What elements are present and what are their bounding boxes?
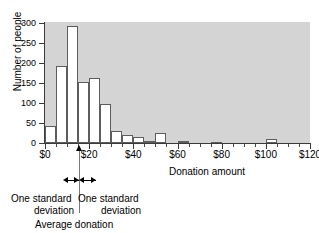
y-axis-title: Number of people bbox=[12, 0, 23, 107]
x-axis-title: Donation amount bbox=[0, 166, 319, 177]
x-tick-minor bbox=[144, 144, 145, 147]
x-tick-minor bbox=[122, 144, 123, 147]
average-donation-label: Average donation bbox=[35, 219, 113, 231]
x-tick-minor bbox=[277, 144, 278, 147]
x-tick-minor bbox=[155, 144, 156, 147]
x-tick-label: $40 bbox=[125, 150, 142, 160]
x-tick-minor bbox=[255, 144, 256, 147]
x-tick-minor bbox=[211, 144, 212, 147]
sd-left-label-line1: One standard bbox=[11, 193, 72, 205]
sd-right-label-line1: One standard bbox=[78, 193, 139, 205]
sd-right-label-line2: deviation bbox=[101, 205, 141, 217]
x-tick-minor bbox=[111, 144, 112, 147]
x-tick-minor bbox=[67, 144, 68, 147]
x-tick-minor bbox=[288, 144, 289, 147]
x-tick-label: $0 bbox=[39, 150, 50, 160]
x-tick-label: $100 bbox=[255, 150, 277, 160]
x-tick-label: $20 bbox=[81, 150, 98, 160]
x-tick-minor bbox=[166, 144, 167, 147]
x-tick-label: $60 bbox=[169, 150, 186, 160]
x-tick-minor bbox=[244, 144, 245, 147]
x-tick-label: $80 bbox=[213, 150, 230, 160]
x-tick-minor bbox=[299, 144, 300, 147]
x-tick-minor bbox=[200, 144, 201, 147]
sd-left-arrow-icon bbox=[63, 176, 80, 185]
x-tick-label: $120 bbox=[299, 150, 319, 160]
x-tick-minor bbox=[189, 144, 190, 147]
histogram-figure: 050100150200250300 $0$20$40$60$80$100$12… bbox=[0, 0, 319, 233]
sd-right-arrow-icon bbox=[79, 176, 96, 185]
x-tick-minor bbox=[233, 144, 234, 147]
sd-left-label-line2: deviation bbox=[34, 205, 74, 217]
x-tick-minor bbox=[100, 144, 101, 147]
x-tick-minor bbox=[56, 144, 57, 147]
